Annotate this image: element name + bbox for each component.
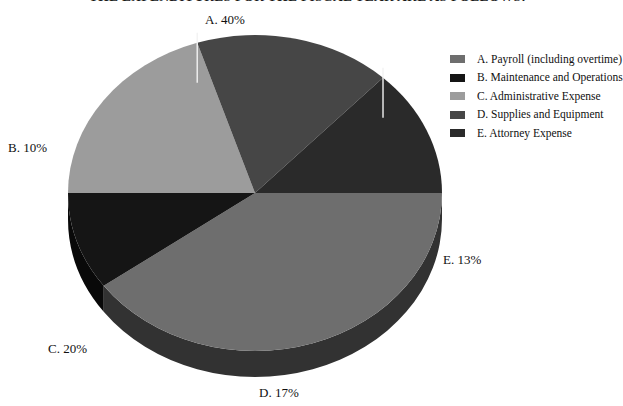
chart-legend: A. Payroll (including overtime)B. Mainte… (450, 50, 615, 143)
legend-swatch-icon-c (450, 92, 465, 100)
legend-swatch-icon-b (450, 74, 465, 82)
legend-label-d: D. Supplies and Equipment (477, 109, 604, 121)
legend-item-a: A. Payroll (including overtime) (450, 50, 615, 69)
pie-top-slices (68, 35, 442, 351)
legend-label-b: B. Maintenance and Operations (477, 72, 623, 84)
legend-swatch-icon-d (450, 111, 465, 119)
legend-label-c: C. Administrative Expense (477, 91, 601, 103)
slice-label-d: D. 17% (259, 385, 299, 401)
slice-label-e: E. 13% (443, 252, 481, 268)
legend-item-d: D. Supplies and Equipment (450, 106, 615, 125)
legend-item-e: E. Attorney Expense (450, 124, 615, 143)
legend-swatch-icon-e (450, 129, 465, 137)
legend-item-c: C. Administrative Expense (450, 87, 615, 106)
legend-label-a: A. Payroll (including overtime) (477, 54, 622, 66)
legend-item-b: B. Maintenance and Operations (450, 69, 615, 88)
legend-swatch-icon-a (450, 55, 465, 63)
legend-label-e: E. Attorney Expense (477, 128, 572, 140)
slice-label-a: A. 40% (205, 12, 245, 28)
slice-label-c: C. 20% (48, 341, 87, 357)
slice-label-b: B. 10% (8, 140, 47, 156)
